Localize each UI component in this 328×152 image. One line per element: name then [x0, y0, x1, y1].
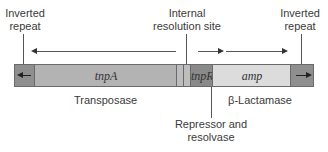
tnpA-segment: tnpA: [34, 65, 176, 86]
label-line: Internal: [145, 7, 229, 20]
tnpR-leader-line: [211, 87, 212, 118]
amp-segment: amp: [212, 65, 290, 86]
arrow-left-icon: [17, 72, 23, 78]
arrow-left-icon: [31, 48, 37, 54]
label-line: Inverted: [278, 7, 322, 20]
res-site-segment-1: [176, 65, 183, 86]
amp-transcription-arrow: [226, 51, 282, 52]
amp-gene-label: amp: [213, 69, 291, 84]
label-line: Inverted: [4, 7, 46, 20]
internal-resolution-site-label: Internal resolution site: [145, 7, 229, 33]
tnpA-transcription-arrow: [36, 51, 176, 52]
right-inverted-repeat-segment: [290, 65, 313, 86]
res-site-segment-2: [183, 65, 190, 86]
tnpR-gene-label: tnpR: [191, 69, 213, 84]
arrow-right-icon: [306, 72, 312, 78]
right-inverted-repeat-label: Inverted repeat: [278, 7, 322, 33]
tnpR-transcription-arrow: [198, 51, 218, 52]
left-repeat-leader-line: [23, 34, 24, 64]
tnpA-gene-label: tnpA: [35, 69, 177, 84]
res-site-leader-line: [186, 34, 187, 64]
transposase-label: Transposase: [74, 94, 136, 107]
transposon-map: tnpA tnpR amp: [14, 64, 314, 87]
label-line: resolvase: [166, 131, 256, 144]
arrow-right-icon: [218, 48, 224, 54]
right-repeat-leader-line: [301, 34, 302, 64]
left-inverted-repeat-segment: [14, 65, 34, 86]
label-line: repeat: [4, 20, 46, 33]
left-inverted-repeat-label: Inverted repeat: [4, 7, 46, 33]
label-line: Repressor and: [166, 118, 256, 131]
beta-lactamase-label: β-Lactamase: [226, 94, 294, 107]
repressor-resolvase-label: Repressor and resolvase: [166, 118, 256, 144]
arrow-right-icon: [282, 48, 288, 54]
tnpR-segment: tnpR: [190, 65, 212, 86]
label-line: repeat: [278, 20, 322, 33]
label-line: resolution site: [145, 20, 229, 33]
